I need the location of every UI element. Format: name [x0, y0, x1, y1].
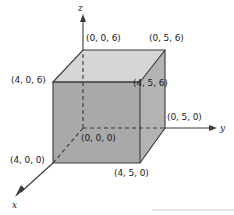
vertex-0-0-0-label: (0, 0, 0) [81, 133, 116, 143]
vertex-0-0-6-label: (0, 0, 6) [86, 33, 121, 43]
y-axis-arrowhead [209, 125, 217, 131]
x-axis-arrowhead [15, 185, 25, 197]
z-axis-arrowhead [80, 14, 86, 22]
box-front-face [53, 82, 140, 163]
y-axis-label: y [220, 123, 225, 133]
vertex-0-5-0-label: (0, 5, 0) [167, 112, 202, 122]
vertex-0-5-6-label: (0, 5, 6) [149, 33, 184, 43]
z-axis-label: z [78, 3, 83, 13]
vertex-4-0-0-label: (4, 0, 0) [10, 155, 45, 165]
vertex-4-0-6-label: (4, 0, 6) [11, 75, 46, 85]
vertex-4-5-6-label: (4, 5, 6) [133, 78, 168, 88]
x-axis-label: x [12, 200, 17, 210]
coordinate-box-figure: (0, 0, 6) (0, 5, 6) (4, 0, 6) (4, 5, 6) … [0, 0, 234, 215]
x-axis-line [21, 163, 53, 192]
vertex-4-5-0-label: (4, 5, 0) [114, 168, 149, 178]
